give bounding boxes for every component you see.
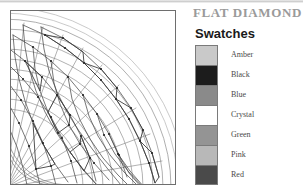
swatch-label: Green (231, 125, 251, 145)
swatch-label: Black (231, 65, 250, 85)
swatch-color-chip (195, 165, 218, 185)
list-item[interactable]: Green (195, 125, 297, 145)
page-top-rule (0, 0, 303, 3)
flat-diamond-figure-panel (10, 10, 176, 185)
list-item[interactable]: Amber (195, 45, 297, 65)
swatch-list: Amber Black Blue Crystal Green Pink (195, 45, 297, 185)
flat-diamond-diagram (11, 11, 175, 184)
list-item[interactable]: Red (195, 165, 297, 185)
swatch-color-chip (195, 65, 218, 85)
swatch-color-chip (195, 45, 218, 65)
swatch-legend-panel: FLAT DIAMOND Swatches Amber Black Blue C… (193, 6, 297, 189)
list-item[interactable]: Blue (195, 85, 297, 105)
swatch-sheet-page: FLAT DIAMOND Swatches Amber Black Blue C… (0, 0, 303, 193)
list-item[interactable]: Pink (195, 145, 297, 165)
list-item[interactable]: Black (195, 65, 297, 85)
swatches-heading: Swatches (195, 26, 297, 41)
swatch-color-chip (195, 85, 218, 105)
swatch-label: Pink (231, 145, 246, 165)
swatch-color-chip (195, 125, 218, 145)
swatch-label: Amber (231, 45, 253, 65)
swatch-label: Blue (231, 85, 246, 105)
swatch-label: Red (231, 165, 244, 185)
swatch-color-chip (195, 145, 218, 165)
swatch-color-chip (195, 105, 218, 125)
list-item[interactable]: Crystal (195, 105, 297, 125)
swatch-label: Crystal (231, 105, 254, 125)
sheet-title: FLAT DIAMOND (193, 6, 297, 20)
